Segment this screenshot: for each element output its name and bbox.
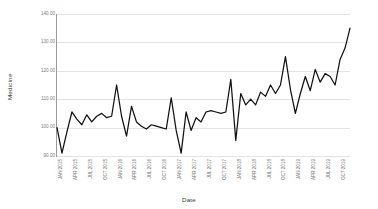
x-tick-label: JAN 2019 — [297, 159, 302, 179]
y-tick-label: 140.00 — [41, 12, 55, 17]
y-tick-label: 110.00 — [41, 97, 55, 102]
series-line — [57, 28, 350, 153]
plot-area — [57, 14, 350, 156]
y-axis-title: Medicine — [2, 52, 16, 122]
x-tick-label: OCT 2015 — [104, 159, 109, 180]
x-tick-label: JUL 2018 — [268, 159, 273, 179]
x-tick-label: APR 2018 — [253, 159, 258, 180]
x-tick-label: OCT 2018 — [282, 159, 287, 180]
x-tick-label: APR 2015 — [74, 159, 79, 180]
x-axis-title: Date — [0, 196, 378, 203]
x-tick-label: JAN 2017 — [178, 159, 183, 179]
x-tick-label: OCT 2017 — [223, 159, 228, 180]
x-tick-label: JUL 2015 — [89, 159, 94, 179]
x-tick-label: JAN 2015 — [59, 159, 64, 179]
line-chart: Medicine 140.00130.00120.00110.00100.009… — [0, 0, 378, 209]
x-tick-label: OCT 2016 — [163, 159, 168, 180]
x-tick-label: APR 2017 — [193, 159, 198, 180]
x-axis-tick-labels: JAN 2015APR 2015JUL 2015OCT 2015JAN 2016… — [57, 157, 350, 197]
x-tick-label: JAN 2016 — [119, 159, 124, 179]
x-tick-label: OCT 2019 — [342, 159, 347, 180]
y-tick-label: 100.00 — [41, 125, 55, 130]
x-tick-label: JAN 2018 — [238, 159, 243, 179]
x-tick-label: JUL 2017 — [208, 159, 213, 179]
y-tick-label: 90.00 — [44, 154, 56, 159]
series-medicine — [57, 14, 350, 156]
x-tick-label: APR 2016 — [133, 159, 138, 180]
y-axis-tick-labels: 140.00130.00120.00110.00100.0090.00 — [22, 0, 55, 209]
y-tick-label: 130.00 — [41, 40, 55, 45]
y-tick-label: 120.00 — [41, 69, 55, 74]
x-tick-label: JUL 2016 — [148, 159, 153, 179]
x-tick-label: APR 2019 — [312, 159, 317, 180]
x-tick-label: JUL 2019 — [327, 159, 332, 179]
